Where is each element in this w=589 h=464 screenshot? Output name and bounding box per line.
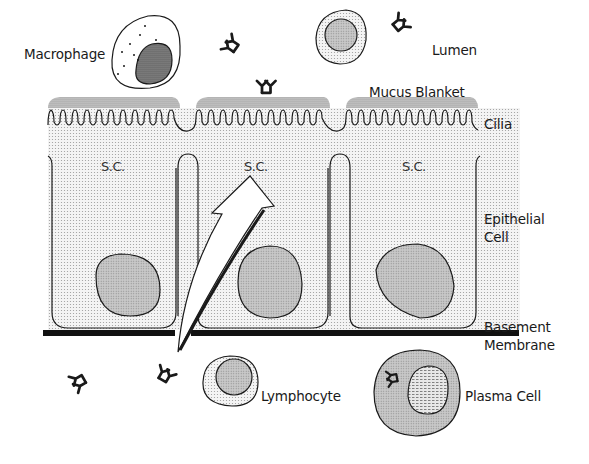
mucus-blanket-label: Mucus Blanket — [369, 84, 465, 100]
lymphocyte — [203, 356, 258, 406]
cell-2-sc-label: S.C. — [244, 159, 268, 174]
antibody-icon — [257, 81, 276, 93]
basement-membrane — [43, 330, 519, 336]
cell-3-sc-label: S.C. — [402, 159, 426, 174]
nucleus-1 — [96, 254, 160, 316]
lymphocyte-label: Lymphocyte — [261, 388, 341, 404]
plasma-cell-label: Plasma Cell — [465, 388, 541, 404]
antibody-icon — [221, 34, 241, 56]
macrophage-label: Macrophage — [24, 46, 105, 62]
plasma-cell — [374, 350, 460, 436]
macrophage — [112, 16, 180, 89]
lumen-cell — [316, 10, 366, 64]
lumen-label: Lumen — [432, 42, 477, 58]
epithelial-cell-label-1: Epithelial — [484, 211, 545, 227]
cell-1-sc-label: S.C. — [101, 159, 125, 174]
cilia-label: Cilia — [484, 116, 512, 132]
nucleus-2 — [238, 246, 302, 318]
basement-membrane-label-1: Basement — [484, 319, 551, 335]
antibody-icon — [154, 365, 176, 385]
antibody-icon — [69, 371, 89, 393]
epithelial-cell-label-2: Cell — [484, 229, 508, 245]
antibody-icon — [390, 13, 411, 35]
basement-membrane-label-2: Membrane — [484, 337, 555, 353]
